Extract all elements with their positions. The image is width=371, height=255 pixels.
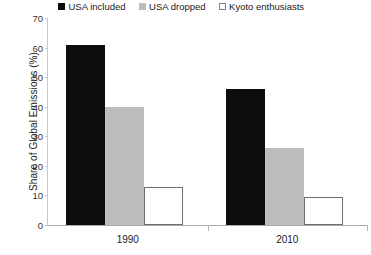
y-axis-tick-label: 40 [32,101,48,112]
bar-usa-included [226,89,265,225]
y-axis-tick-label: 30 [32,131,48,142]
black-square-icon [58,3,65,10]
y-axis-tick-label: 70 [32,13,48,24]
y-axis-tick-label: 0 [38,220,48,231]
legend-label: Kyoto enthusiasts [229,2,304,12]
bar-group: 1990 [48,18,208,225]
category-separator [367,225,368,231]
bar-usa-dropped [265,148,304,225]
white-square-icon [219,3,226,10]
bar-usa-included [66,45,105,225]
bar-kyoto-enthusiasts [144,187,183,225]
legend-item-kyoto-enthusiasts: Kyoto enthusiasts [219,2,305,12]
gray-square-icon [139,3,146,10]
legend-item-usa-included: USA included [58,2,126,12]
legend-label: USA dropped [149,2,206,12]
bar-group: 2010 [208,18,368,225]
plot-area: 01020304050607019902010 [47,18,367,226]
y-axis-tick-label: 50 [32,72,48,83]
x-axis-tick-label: 1990 [117,234,139,245]
bar-chart: USA included USA dropped Kyoto enthusias… [0,0,371,255]
y-axis-tick-label: 10 [32,190,48,201]
legend-label: USA included [69,2,126,12]
x-axis-tick-label: 2010 [276,234,298,245]
y-axis-tick-label: 20 [32,160,48,171]
y-axis-title: Share of Global Emissions (%) [28,27,39,217]
legend-item-usa-dropped: USA dropped [139,2,206,12]
y-axis-tick-label: 60 [32,42,48,53]
bar-usa-dropped [105,107,144,225]
bar-kyoto-enthusiasts [304,197,343,225]
chart-legend: USA included USA dropped Kyoto enthusias… [58,2,304,12]
category-separator [208,225,209,231]
